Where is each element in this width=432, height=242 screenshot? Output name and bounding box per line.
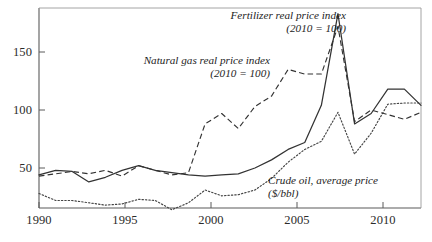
chart-figure: 150 100 50 1990 1995 2000 2005 2010 Fert… <box>0 0 432 242</box>
y-tick-label-50: 50 <box>2 161 32 176</box>
x-tick-label-2010: 2010 <box>357 213 409 228</box>
annotation-fertilizer-line2: (2010 = 100) <box>206 22 346 35</box>
x-axis-ticks <box>39 202 383 208</box>
x-tick-label-1995: 1995 <box>99 213 151 228</box>
x-tick-label-2005: 2005 <box>271 213 323 228</box>
annotation-natural-gas-line2: (2010 = 100) <box>122 67 270 80</box>
series-line-fertilizer <box>39 14 421 182</box>
x-tick-label-1990: 1990 <box>13 213 65 228</box>
annotation-fertilizer: Fertilizer real price index (2010 = 100) <box>206 9 346 35</box>
y-tick-label-150: 150 <box>2 45 32 60</box>
annotation-natural-gas-line1: Natural gas real price index <box>144 54 270 66</box>
annotation-crude-oil-line2: ($/bbl) <box>268 187 408 200</box>
series-line-natural-gas <box>39 26 421 176</box>
annotation-natural-gas: Natural gas real price index (2010 = 100… <box>122 54 270 80</box>
annotation-crude-oil-line1: Crude oil, average price <box>268 174 378 186</box>
y-tick-label-100: 100 <box>2 103 32 118</box>
annotation-crude-oil: Crude oil, average price ($/bbl) <box>268 174 408 200</box>
annotation-fertilizer-line1: Fertilizer real price index <box>231 9 346 21</box>
x-tick-label-2000: 2000 <box>185 213 237 228</box>
chart-plot-area <box>0 0 432 242</box>
y-axis-ticks <box>39 52 45 168</box>
